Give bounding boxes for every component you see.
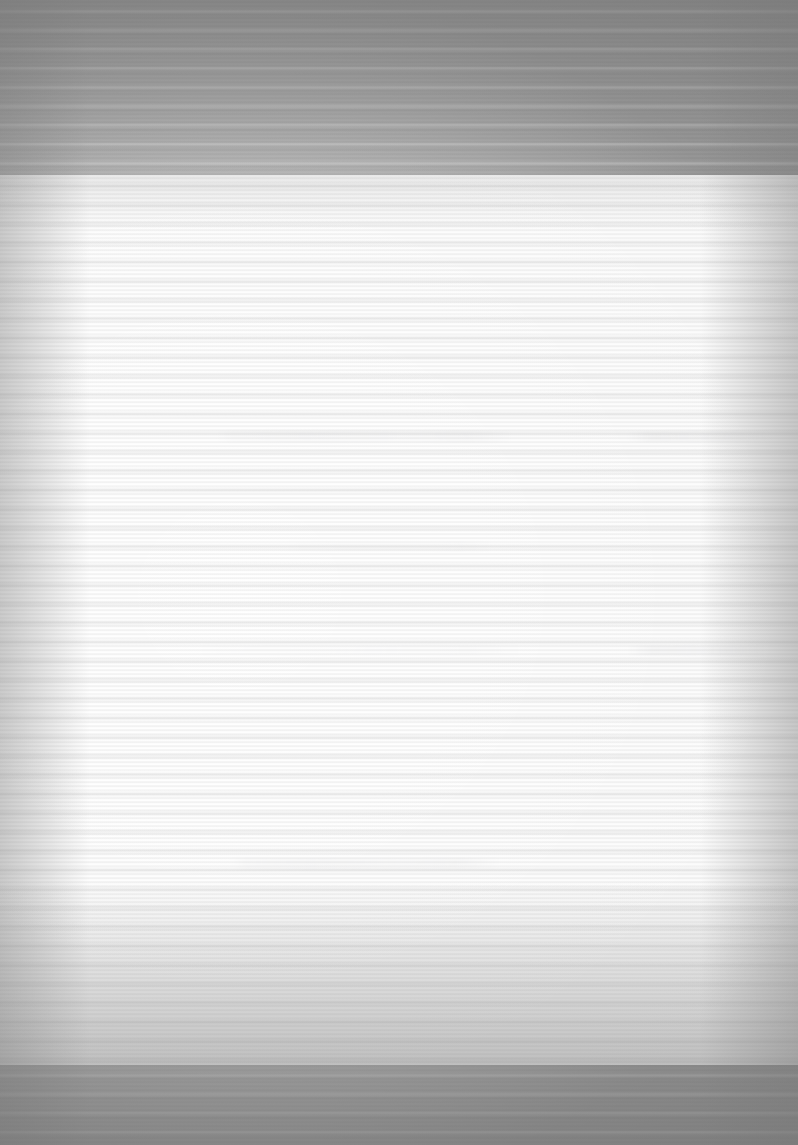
scanned-document-page: Severely over-exposed / washed-out scan … [0, 0, 798, 1145]
text-line-heading-right-fragment-illegible [625, 431, 775, 442]
text-line-body-3-illegible [230, 858, 500, 869]
text-line-body-2-illegible [200, 644, 520, 656]
text-line-body-1-illegible [288, 541, 493, 552]
text-line-heading-illegible [215, 430, 515, 443]
text-column [195, 350, 790, 910]
text-line-body-2-right-fragment-illegible [627, 645, 767, 656]
